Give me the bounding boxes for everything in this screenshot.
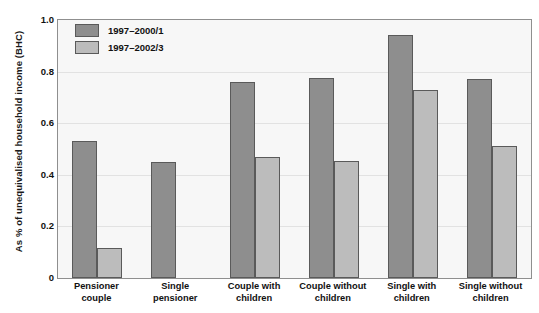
bar[interactable] [151,162,176,278]
bar[interactable] [97,248,122,278]
bar[interactable] [230,82,255,278]
legend-label: 1997–2000/1 [108,25,163,36]
x-axis-label: Couple withchildren [215,281,294,304]
bar-group [294,20,373,278]
y-tick-label: 0.6 [22,117,54,128]
bar[interactable] [388,35,413,278]
legend-item[interactable]: 1997–2000/1 [75,24,163,37]
x-axis-label-line: Couple without [294,281,371,293]
x-axis-label-line: children [452,293,529,305]
x-axis-label-line: children [373,293,450,305]
x-axis-label-line: Single without [452,281,529,293]
bar-group [216,20,295,278]
bar[interactable] [72,141,97,278]
bar-group [137,20,216,278]
bar[interactable] [467,79,492,278]
bar[interactable] [492,146,517,278]
legend-label: 1997–2002/3 [108,42,163,53]
x-axis-label: Singlepensioner [136,281,215,304]
y-tick-label: 1.0 [22,14,54,25]
x-axis-label-line: pensioner [137,293,214,305]
x-axis-label: Single withoutchildren [451,281,530,304]
y-axis-ticks: 1.0 0.8 0.6 0.4 0.2 0 [22,0,54,313]
x-axis-label-line: Couple with [216,281,293,293]
x-axis-label-line: Single [137,281,214,293]
bar-group [373,20,452,278]
bar[interactable] [334,161,359,278]
bar[interactable] [309,78,334,278]
bar[interactable] [413,90,438,278]
bar-group [452,20,531,278]
y-tick-label: 0.8 [22,65,54,76]
y-tick-label: 0.4 [22,168,54,179]
bar-chart: As % of unequivalised household income (… [0,0,539,313]
bars-layer [58,20,531,278]
x-axis-label: Single withchildren [372,281,451,304]
x-axis-label: Pensionercouple [57,281,136,304]
x-axis-label-line: couple [58,293,135,305]
x-axis-label-line: Pensioner [58,281,135,293]
y-tick-label: 0.2 [22,220,54,231]
x-axis-label-line: children [294,293,371,305]
plot-area [57,19,532,279]
bar[interactable] [255,157,280,278]
x-axis-label: Couple withoutchildren [293,281,372,304]
legend: 1997–2000/1 1997–2002/3 [75,24,163,58]
y-tick-label: 0 [22,272,54,283]
bar-group [58,20,137,278]
legend-item[interactable]: 1997–2002/3 [75,41,163,54]
x-axis-label-line: Single with [373,281,450,293]
x-axis-labels: PensionercoupleSinglepensionerCouple wit… [57,281,530,304]
chart-top-margin [0,0,539,11]
x-axis-label-line: children [216,293,293,305]
legend-swatch-icon [75,24,99,37]
legend-swatch-icon [75,41,99,54]
